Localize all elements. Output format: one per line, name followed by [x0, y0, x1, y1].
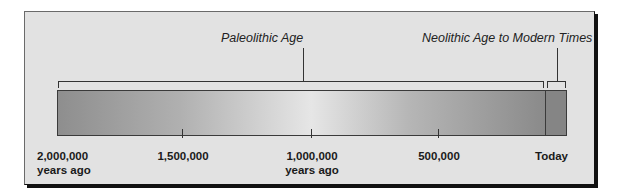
neolithic-bracket-left [547, 81, 548, 88]
tick-1500000 [182, 129, 183, 138]
tick-label-line2: years ago [37, 163, 91, 177]
neolithic-label: Neolithic Age to Modern Times [422, 31, 592, 45]
neolithic-bracket-stem [557, 48, 558, 81]
tick-1000000 [311, 129, 312, 138]
neolithic-bracket-right [565, 81, 566, 88]
tick-label-2000000: 2,000,000 years ago [37, 149, 91, 177]
tick-label-line2: years ago [285, 163, 339, 177]
timeline-panel: Paleolithic Age Neolithic Age to Modern … [24, 11, 595, 185]
tick-label-today: Today [535, 149, 568, 163]
paleolithic-bracket-stem [303, 48, 304, 81]
tick-label-line1: Today [535, 149, 568, 163]
paleolithic-bracket [58, 81, 544, 82]
tick-500000 [438, 129, 439, 138]
tick-label-line1: 2,000,000 [37, 149, 91, 163]
paleolithic-bar [57, 90, 546, 136]
neolithic-bracket [547, 81, 566, 82]
tick-label-line1: 500,000 [418, 149, 460, 163]
tick-label-line1: 1,500,000 [157, 149, 208, 163]
tick-label-500000: 500,000 [418, 149, 460, 163]
tick-label-1000000: 1,000,000 years ago [285, 149, 339, 177]
paleolithic-bracket-left [58, 81, 59, 88]
paleolithic-bracket-right [543, 81, 544, 88]
tick-label-line1: 1,000,000 [285, 149, 339, 163]
neolithic-modern-bar [545, 90, 567, 136]
tick-label-1500000: 1,500,000 [157, 149, 208, 163]
paleolithic-label: Paleolithic Age [221, 31, 303, 45]
